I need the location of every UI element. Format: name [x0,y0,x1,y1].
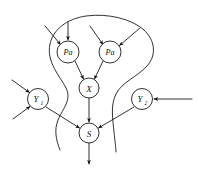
edge-external-to-pa2-upper-left [90,26,103,45]
node-y2-subscript: 2 [145,100,148,106]
edge-y2-to-s [99,107,135,128]
diagram-canvas: Pa Pa X Y 1 Y 2 S [0,0,198,175]
node-s[interactable]: S [79,123,99,143]
node-y1[interactable]: Y 1 [28,89,49,110]
node-x[interactable]: X [79,78,99,98]
node-y2[interactable]: Y 2 [132,89,153,110]
edge-external-to-y1-upper [12,80,30,93]
edge-pa2-to-x [95,61,104,79]
edge-external-to-pa2-upper-right [120,28,141,46]
node-s-label: S [87,129,92,139]
node-pa2-label: Pa [104,48,114,57]
node-pa2[interactable]: Pa [99,41,121,63]
node-x-label: X [85,84,92,94]
enclosing-region [49,15,153,152]
edge-pa1-to-x [75,61,84,79]
edge-external-to-y1-lower [13,107,30,120]
node-y1-subscript: 1 [41,100,44,106]
node-pa1-label: Pa [62,48,72,57]
diagram-root: Pa Pa X Y 1 Y 2 S [0,0,198,175]
node-pa1[interactable]: Pa [57,41,79,63]
